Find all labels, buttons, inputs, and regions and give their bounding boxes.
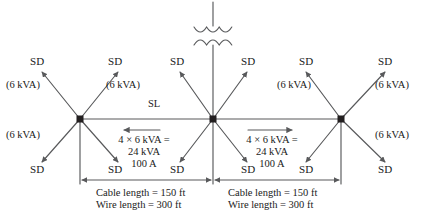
sd-label-top-6: SD	[378, 55, 392, 67]
right-node	[338, 116, 345, 123]
branch-left-lower-left	[42, 119, 80, 162]
sd-label-top-5: SD	[299, 55, 313, 67]
source-label-sl: SL	[148, 98, 160, 110]
kva-label-upper-right-inner: (6 kVA)	[277, 79, 311, 91]
branch-center-upper-right	[213, 72, 247, 119]
branch-right-upper-left	[306, 72, 341, 119]
kva-label-lower-left-outer: (6 kVA)	[6, 129, 40, 141]
kva-label-upper-left-outer: (6 kVA)	[6, 79, 40, 91]
sd-label-top-1: SD	[30, 55, 44, 67]
center-node	[210, 116, 217, 123]
sd-label-top-4: SD	[241, 55, 255, 67]
flow-annotation-left: 4 × 6 kVA = 24 kVA 100 A	[104, 134, 184, 169]
branch-center-upper-left	[180, 72, 213, 119]
dimension-left: Cable length = 150 ft Wire length = 300 …	[96, 187, 185, 211]
dimension-right: Cable length = 150 ft Wire length = 300 …	[228, 187, 317, 211]
dimension-right-cable: Cable length = 150 ft	[228, 187, 317, 199]
left-node	[77, 116, 84, 123]
flow-right-line1: 4 × 6 kVA =	[232, 134, 312, 146]
sd-label-top-3: SD	[170, 55, 184, 67]
flow-right-line2: 24 kVA	[232, 146, 312, 158]
diagram-canvas	[0, 0, 422, 220]
flow-annotation-right: 4 × 6 kVA = 24 kVA 100 A	[232, 134, 312, 169]
flow-left-line1: 4 × 6 kVA =	[104, 134, 184, 146]
flow-right-line3: 100 A	[232, 158, 312, 170]
dimension-right-wire: Wire length = 300 ft	[228, 199, 317, 211]
branch-left-upper-left	[42, 72, 80, 119]
kva-label-upper-left-inner: (6 kVA)	[106, 79, 140, 91]
distribution-diagram: SD SD SD SD SD SD SD SD SD SD SD SD (6 k…	[0, 0, 422, 220]
kva-label-upper-right-outer: (6 kVA)	[375, 79, 409, 91]
branch-center-lower-left	[180, 119, 213, 162]
sd-label-top-2: SD	[108, 55, 122, 67]
flow-left-line3: 100 A	[104, 158, 184, 170]
dimension-left-wire: Wire length = 300 ft	[96, 199, 185, 211]
kva-label-lower-right-outer: (6 kVA)	[375, 129, 409, 141]
flow-left-line2: 24 kVA	[104, 146, 184, 158]
sd-label-bottom-6: SD	[378, 163, 392, 175]
dimension-left-cable: Cable length = 150 ft	[96, 187, 185, 199]
sd-label-bottom-1: SD	[30, 163, 44, 175]
